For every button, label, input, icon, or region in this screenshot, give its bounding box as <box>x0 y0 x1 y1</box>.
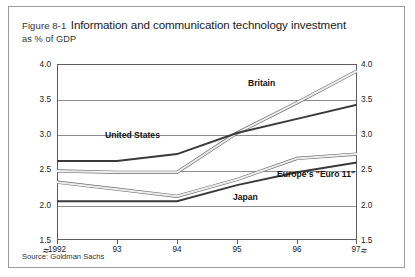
xtick-label-97: 97 <box>336 246 376 254</box>
figure-panel: Figure 8-1 Information and communication… <box>8 6 405 268</box>
figure-title-line: Figure 8-1 Information and communication… <box>22 15 392 33</box>
xtick-label-95: 95 <box>217 246 257 254</box>
xtickmark-97 <box>356 240 357 244</box>
ytick-right-2-5: 2.5 <box>361 166 387 174</box>
xtick-label-96: 96 <box>277 246 317 254</box>
series-label-united-states: United States <box>105 131 160 140</box>
xtick-label-94: 94 <box>157 246 197 254</box>
xtickmark-95 <box>237 240 238 244</box>
figure-heading: Figure 8-1 Information and communication… <box>22 15 392 44</box>
ytick-left-1-5: 1.5 <box>27 237 51 245</box>
ytick-left-3-5: 3.5 <box>27 96 51 104</box>
ytick-right-2-0: 2.0 <box>361 202 387 210</box>
xtickmark-1992 <box>57 240 58 244</box>
ytick-left-2-5: 2.5 <box>27 166 51 174</box>
ytick-left-4-0: 4.0 <box>27 61 51 69</box>
series-label-japan: Japan <box>233 193 258 202</box>
source-note: Source: Goldman Sachs <box>22 252 104 261</box>
ytick-right-4-0: 4.0 <box>361 61 387 69</box>
ytick-right-3-5: 3.5 <box>361 96 387 104</box>
series-lines <box>57 64 357 240</box>
xtickmark-93 <box>117 240 118 244</box>
ytick-right-3-0: 3.0 <box>361 131 387 139</box>
ytick-left-3-0: 3.0 <box>27 131 51 139</box>
page-title: Information and communication technology… <box>71 18 346 31</box>
xtickmark-96 <box>297 240 298 244</box>
figure-number: Figure 8-1 <box>22 20 66 31</box>
xtickmark-94 <box>177 240 178 244</box>
figure-subtitle: as % of GDP <box>22 34 392 44</box>
ytick-left-2-0: 2.0 <box>27 202 51 210</box>
series-label-euro-11: Europe's "Euro 11" <box>277 170 355 179</box>
ytick-right-1-5: 1.5 <box>361 237 387 245</box>
series-label-britain: Britain <box>248 79 275 88</box>
